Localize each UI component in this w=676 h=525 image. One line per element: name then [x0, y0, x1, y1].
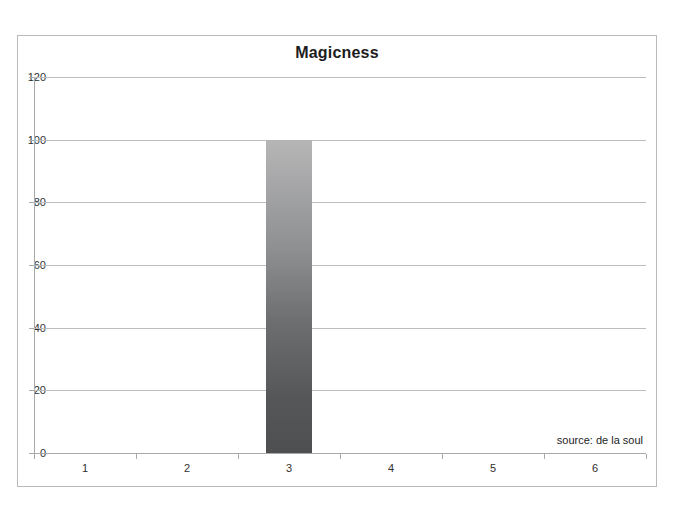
x-tick-label-2: 2 — [184, 462, 190, 474]
y-tick-mark-60 — [29, 265, 34, 266]
x-tick-mark-5 — [544, 454, 545, 459]
x-tick-label-4: 4 — [388, 462, 394, 474]
x-axis: 123456 — [34, 454, 646, 484]
gridline-60 — [34, 265, 646, 266]
x-tick-label-5: 5 — [490, 462, 496, 474]
x-tick-label-3: 3 — [286, 462, 292, 474]
x-tick-mark-3 — [340, 454, 341, 459]
source-note: source: de la soul — [557, 434, 643, 446]
bar-3[interactable] — [266, 140, 313, 453]
x-tick-label-6: 6 — [592, 462, 598, 474]
x-tick-mark-2 — [238, 454, 239, 459]
gridline-100 — [34, 140, 646, 141]
x-tick-mark-end — [646, 454, 647, 459]
plot-area — [34, 77, 646, 453]
gridline-20 — [34, 390, 646, 391]
chart-title: Magicness — [18, 44, 656, 62]
y-tick-mark-120 — [29, 77, 34, 78]
x-tick-label-1: 1 — [82, 462, 88, 474]
x-tick-mark-0 — [34, 454, 35, 459]
y-tick-mark-40 — [29, 328, 34, 329]
y-tick-mark-80 — [29, 202, 34, 203]
y-tick-mark-20 — [29, 390, 34, 391]
y-tick-mark-100 — [29, 140, 34, 141]
gridline-120 — [34, 77, 646, 78]
y-tick-mark-0 — [29, 453, 34, 454]
gridline-80 — [34, 202, 646, 203]
gridline-40 — [34, 328, 646, 329]
x-tick-mark-4 — [442, 454, 443, 459]
chart-frame: Magicness 020406080100120 123456 source:… — [17, 35, 657, 487]
x-tick-mark-1 — [136, 454, 137, 459]
